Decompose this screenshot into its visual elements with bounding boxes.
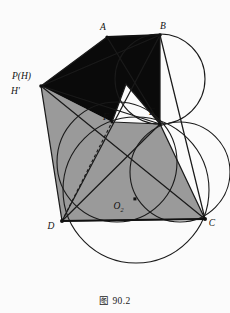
label-c: C	[209, 218, 216, 228]
vertex-dot-a	[105, 35, 108, 38]
label-f: F	[102, 112, 109, 122]
label-h-prime: H'	[10, 86, 21, 96]
figure-container: A B P(H) H' E F D C O 2 图 90.2	[0, 0, 230, 313]
vertex-dot-d	[60, 219, 64, 223]
vertex-dot-e	[158, 122, 162, 126]
label-a: A	[99, 22, 106, 32]
geometry-diagram: A B P(H) H' E F D C O 2	[0, 0, 230, 313]
figure-caption: 图 90.2	[0, 293, 230, 307]
label-b: B	[160, 21, 166, 31]
vertex-dot-o2	[133, 197, 136, 200]
label-o2-subscript: 2	[120, 206, 123, 213]
vertex-dot-b	[158, 33, 162, 37]
label-p-h: P(H)	[11, 71, 31, 82]
vertex-dot-hprime	[39, 84, 43, 88]
label-e: E	[148, 107, 155, 117]
vertex-dot-f	[111, 121, 114, 124]
label-d: D	[47, 221, 55, 231]
vertex-dot-c	[203, 217, 207, 221]
